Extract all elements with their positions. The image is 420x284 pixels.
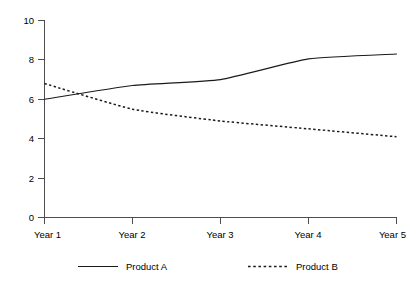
x-tick-label-year-1: Year 1 <box>34 229 61 240</box>
chart-canvas: 10 8 6 4 2 0 Year 1 Year 2 Year 3 Year 4… <box>0 0 420 284</box>
x-tick-label-year-4: Year 4 <box>294 229 321 240</box>
x-tick-label-year-3: Year 3 <box>206 229 233 240</box>
y-tick-label-8: 8 <box>29 54 34 65</box>
chart-background <box>0 0 420 284</box>
y-tick-label-6: 6 <box>29 94 34 105</box>
x-tick-label-year-5: Year 5 <box>379 229 406 240</box>
x-tick-label-year-2: Year 2 <box>118 229 145 240</box>
y-tick-label-10: 10 <box>23 15 34 26</box>
legend-label-product-a: Product A <box>126 261 168 272</box>
y-tick-label-2: 2 <box>29 173 34 184</box>
y-tick-label-0: 0 <box>29 212 34 223</box>
line-chart: 10 8 6 4 2 0 Year 1 Year 2 Year 3 Year 4… <box>0 0 420 284</box>
y-tick-label-4: 4 <box>29 133 34 144</box>
legend-label-product-b: Product B <box>296 261 338 272</box>
